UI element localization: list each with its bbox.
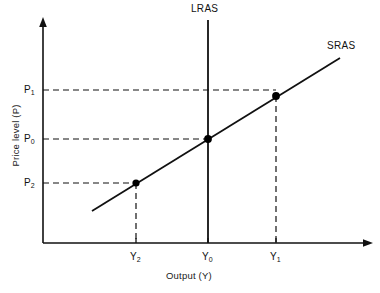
- x-tick-label-y1-sub: 1: [277, 256, 281, 263]
- x-axis-arrowhead: [363, 239, 373, 247]
- y-tick-label-p1-text: P: [24, 84, 31, 95]
- y-tick-label-p1: P1: [24, 84, 35, 95]
- sras-curve: [92, 58, 340, 211]
- x-tick-label-y0-sub: 0: [209, 256, 213, 263]
- x-tick-label-y2: Y2: [130, 251, 141, 262]
- x-tick-label-y0: Y0: [202, 251, 213, 262]
- x-tick-label-y0-text: Y: [202, 251, 209, 262]
- x-tick-label-y2-sub: 2: [137, 256, 141, 263]
- as-ad-diagram-svg: [0, 0, 380, 293]
- point-p0-y0: [204, 135, 212, 143]
- y-tick-label-p0-text: P: [24, 133, 31, 144]
- lras-label: LRAS: [191, 3, 218, 14]
- y-tick-label-p0: P0: [24, 133, 35, 144]
- point-p2-y2: [132, 179, 139, 186]
- y-tick-label-p0-sub: 0: [31, 138, 35, 145]
- diagram-canvas: LRAS SRAS P1 P0 P2 Y2 Y0 Y1 Price level …: [0, 0, 380, 293]
- x-tick-label-y1: Y1: [270, 251, 281, 262]
- x-tick-label-y1-text: Y: [270, 251, 277, 262]
- x-tick-label-y2-text: Y: [130, 251, 137, 262]
- y-tick-label-p2-text: P: [24, 177, 31, 188]
- y-tick-label-p1-sub: 1: [31, 89, 35, 96]
- y-axis-arrowhead: [39, 17, 47, 27]
- y-tick-label-p2-sub: 2: [31, 182, 35, 189]
- y-axis-title: Price level (P): [10, 96, 21, 176]
- sras-label: SRAS: [327, 40, 355, 51]
- y-tick-label-p2: P2: [24, 177, 35, 188]
- y-axis-group: [39, 17, 47, 243]
- point-p1-y1: [272, 92, 280, 100]
- x-axis-title: Output (Y): [166, 270, 212, 281]
